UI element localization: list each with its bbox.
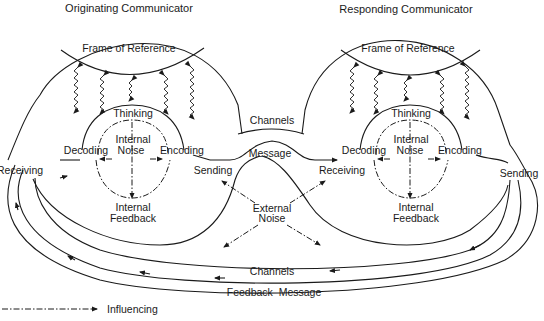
influencing-label: Influencing — [107, 303, 158, 315]
receiving-right-label: Receiving — [319, 164, 365, 176]
decoding-left: Decoding — [64, 144, 109, 156]
frame-of-reference-right: Frame of Reference — [361, 42, 455, 54]
channels-top-label: Channels — [250, 114, 294, 126]
sending-left-label: Sending — [194, 164, 233, 176]
sending-right-label: Sending — [500, 167, 539, 179]
external-noise-label-2: Noise — [259, 212, 286, 224]
communication-diagram: Originating Communicator Responding Comm… — [0, 0, 544, 321]
feedback-message-label: Feedback Message — [227, 286, 322, 298]
encoding-link-right — [476, 155, 508, 163]
thinking-left: Thinking — [113, 107, 153, 119]
internal-noise-left-2: Noise — [118, 144, 145, 156]
thinking-right: Thinking — [391, 107, 431, 119]
responding-communicator-shape — [262, 41, 510, 245]
channels-bottom-label: Channels — [250, 265, 294, 277]
channels-arc — [238, 129, 304, 134]
frame-of-reference-left: Frame of Reference — [82, 42, 176, 54]
internal-feedback-right-2: Feedback — [393, 212, 440, 224]
encoding-right: Encoding — [438, 144, 482, 156]
internal-noise-right-2: Noise — [397, 144, 424, 156]
internal-feedback-left-2: Feedback — [110, 212, 157, 224]
encoding-left: Encoding — [160, 144, 204, 156]
message-top-label: Message — [249, 147, 292, 159]
responding-communicator-title: Responding Communicator — [339, 3, 473, 15]
decoding-right: Decoding — [342, 144, 387, 156]
legend: Influencing — [2, 303, 158, 315]
originating-communicator-title: Originating Communicator — [65, 2, 193, 14]
